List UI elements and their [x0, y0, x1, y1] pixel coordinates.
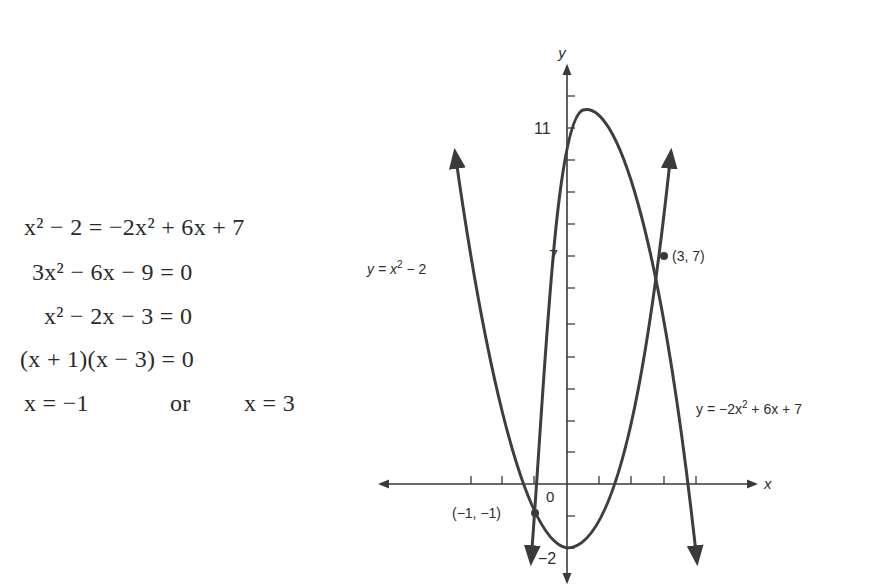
graph: y x 0 11 7 −2 (3, 7) (−1, −1) y = x2 − 2…: [0, 0, 884, 588]
point-label-neg1-neg1: (−1, −1): [452, 505, 501, 521]
origin-label: 0: [546, 488, 554, 505]
y-ticks: [567, 96, 575, 548]
y-tick-label-11: 11: [534, 120, 551, 137]
svg-text:y = −2x2 + 6x + 7: y = −2x2 + 6x + 7: [696, 399, 802, 417]
y-axis-label: y: [557, 44, 567, 61]
intersection-point-neg1-neg1: [531, 509, 539, 517]
x-axis-label: x: [763, 475, 772, 492]
intersection-point-3-7: [660, 252, 668, 260]
point-label-3-7: (3, 7): [672, 248, 705, 264]
curve-label-upward: y = x2 − 2: [366, 259, 426, 277]
y-tick-label-neg2: −2: [538, 550, 556, 567]
svg-text:y = x2 − 2: y = x2 − 2: [366, 259, 426, 277]
curve-downward-parabola: [531, 109, 697, 562]
x-ticks: [471, 476, 696, 484]
y-tick-label-7: 7: [549, 248, 558, 265]
curve-label-downward: y = −2x2 + 6x + 7: [696, 399, 802, 417]
